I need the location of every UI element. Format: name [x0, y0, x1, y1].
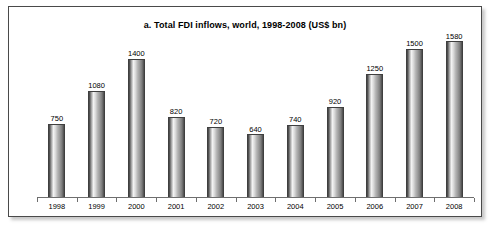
bar-value-label: 820: [170, 108, 183, 116]
bar-slot: 1500: [395, 41, 435, 198]
bar: 820: [168, 117, 185, 199]
chart-figure: a. Total FDI inflows, world, 1998-2008 (…: [0, 0, 497, 232]
x-axis-tick-label: 2002: [196, 203, 236, 211]
x-axis-tick: [275, 198, 276, 202]
bar-category: 1400: [116, 41, 156, 198]
x-axis-tick: [156, 198, 157, 202]
bar-value-label: 1250: [366, 65, 383, 73]
bar-category: 820: [156, 41, 196, 198]
bar-category: 1250: [355, 41, 395, 198]
bar: 1250: [366, 74, 383, 198]
bar-value-label: 1400: [128, 50, 145, 58]
x-axis-tick: [37, 198, 38, 202]
bar-slot: 920: [315, 41, 355, 198]
bar-slot: 640: [236, 41, 276, 198]
x-axis-tick: [395, 198, 396, 202]
bar-value-label: 720: [210, 118, 223, 126]
x-axis-tick-label: 2005: [315, 203, 355, 211]
bar-category: 1080: [77, 41, 117, 198]
bar-slot: 1250: [355, 41, 395, 198]
x-axis-tick: [434, 198, 435, 202]
bar-category: 750: [37, 41, 77, 198]
x-axis-tick-label: 2001: [156, 203, 196, 211]
bar-slot: 820: [156, 41, 196, 198]
bar-value-label: 1080: [88, 82, 105, 90]
x-axis-tick-label: 2008: [434, 203, 474, 211]
bar-value-label: 1580: [446, 33, 463, 41]
bar-slot: 1580: [434, 41, 474, 198]
x-axis-tick-label: 2006: [355, 203, 395, 211]
bar: 740: [287, 125, 304, 199]
chart-frame: a. Total FDI inflows, world, 1998-2008 (…: [8, 6, 482, 217]
bar: 750: [48, 124, 65, 199]
bar-value-label: 740: [289, 116, 302, 124]
bar-category: 1580: [434, 41, 474, 198]
bar-category: 640: [236, 41, 276, 198]
x-axis-tick-label: 1999: [77, 203, 117, 211]
x-axis-tick-label: 1998: [37, 203, 77, 211]
x-axis-line: [37, 197, 474, 198]
bar: 640: [247, 134, 264, 198]
x-axis-tick: [196, 198, 197, 202]
bar-value-label: 750: [51, 115, 64, 123]
x-axis-tick: [474, 198, 475, 202]
bar-series: 75010801400820720640740920125015001580: [37, 41, 474, 198]
bar-value-label: 1500: [406, 40, 423, 48]
bar-slot: 1080: [77, 41, 117, 198]
bar: 1580: [446, 41, 463, 198]
bar: 920: [327, 107, 344, 198]
x-axis-tick: [236, 198, 237, 202]
x-axis-tick: [355, 198, 356, 202]
bar-category: 1500: [395, 41, 435, 198]
chart-title: a. Total FDI inflows, world, 1998-2008 (…: [9, 20, 481, 30]
x-axis-tick-label: 2004: [275, 203, 315, 211]
x-axis-tick: [315, 198, 316, 202]
x-axis-tick-label: 2003: [236, 203, 276, 211]
bar-value-label: 920: [329, 98, 342, 106]
bar-slot: 1400: [116, 41, 156, 198]
bar-value-label: 640: [249, 126, 262, 134]
bar: 1400: [128, 59, 145, 198]
bar-category: 920: [315, 41, 355, 198]
bar: 1080: [88, 91, 105, 198]
x-axis-labels: 1998199920002001200220032004200520062007…: [37, 203, 474, 211]
x-axis-tick: [116, 198, 117, 202]
bar-category: 720: [196, 41, 236, 198]
x-axis-tick-label: 2000: [116, 203, 156, 211]
bar: 720: [207, 127, 224, 199]
x-axis-tick: [77, 198, 78, 202]
bar-slot: 750: [37, 41, 77, 198]
bar: 1500: [406, 49, 423, 198]
bar-slot: 740: [275, 41, 315, 198]
bar-slot: 720: [196, 41, 236, 198]
x-axis-tick-label: 2007: [395, 203, 435, 211]
bar-category: 740: [275, 41, 315, 198]
